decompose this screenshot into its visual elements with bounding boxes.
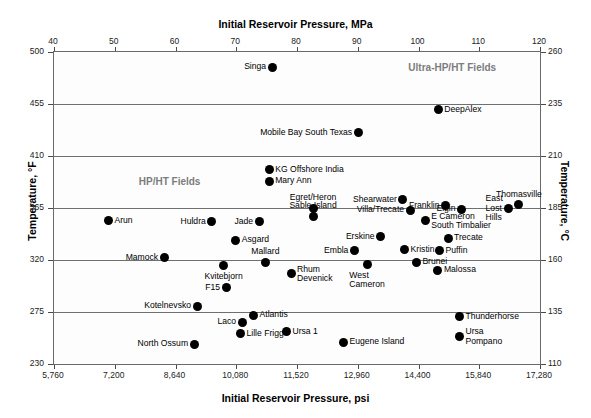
data-point-label: Atlantis — [260, 311, 288, 321]
data-point-label: Lille Frigg — [246, 329, 283, 339]
y-axis-tick-label: 230 — [30, 358, 44, 368]
data-point-label: Laco — [218, 318, 237, 328]
scatter-chart: Initial Reservoir Pressure, MPa Initial … — [0, 0, 591, 418]
y-axis-right-tick — [541, 260, 546, 261]
data-point-label: Kristin — [411, 245, 435, 255]
x-axis-tick — [419, 365, 420, 369]
x-axis-tick — [358, 365, 359, 369]
data-point — [282, 327, 291, 336]
x-axis-tick-label: 8,640 — [164, 370, 185, 380]
x-axis-tick — [479, 365, 480, 369]
data-point — [190, 340, 199, 349]
y-axis-right-tick-label: 235 — [548, 98, 562, 108]
data-point — [339, 338, 348, 347]
y-axis-tick — [48, 156, 53, 157]
y-axis-right-tick-label: 185 — [548, 202, 562, 212]
data-point-label: Jade — [234, 217, 253, 227]
data-point-label: Arun — [114, 216, 132, 226]
y-axis-tick-label: 275 — [30, 306, 44, 316]
data-point-label: Embla — [324, 246, 348, 256]
y-axis-tick — [48, 364, 53, 365]
data-point-label: Eugene Island — [349, 337, 404, 347]
data-point-label: Thunderhorse — [465, 312, 519, 322]
data-point — [444, 234, 453, 243]
data-point-label: Mamock — [126, 253, 158, 263]
data-point-label: Trecate — [454, 233, 483, 243]
data-point-label: Singa — [244, 62, 266, 72]
y-axis-right-tick-label: 160 — [548, 254, 562, 264]
data-point — [238, 318, 247, 327]
y-axis-tick-label: 320 — [30, 254, 44, 264]
y-axis-tick — [48, 312, 53, 313]
data-point-label: Asgard — [242, 236, 269, 246]
x-axis-tick — [540, 365, 541, 369]
x-axis-top-tick — [419, 47, 420, 51]
y-axis-right-tick — [541, 208, 546, 209]
data-point-label: Huldra — [180, 217, 205, 227]
plot-inner: Ultra-HP/HT FieldsHP/HT FieldsSingaDeepA… — [54, 52, 540, 364]
y-axis-tick — [48, 260, 53, 261]
data-point — [287, 269, 296, 278]
data-point — [455, 332, 464, 341]
data-point-label: KG Offshore India — [275, 165, 344, 175]
data-point — [268, 63, 277, 72]
data-point — [433, 266, 442, 275]
x-axis-tick-label: 11,520 — [283, 370, 308, 380]
data-point — [265, 177, 274, 186]
x-axis-tick-label: 10,080 — [222, 370, 248, 380]
data-point-label: Ursa 1 — [292, 327, 317, 337]
data-point-label: Kvitebjorn — [204, 272, 242, 282]
plot-area: Ultra-HP/HT FieldsHP/HT FieldsSingaDeepA… — [53, 51, 541, 365]
x-axis-tick-label: 12,960 — [344, 370, 370, 380]
data-point — [255, 217, 264, 226]
data-point — [104, 216, 113, 225]
bottom-axis-title: Initial Reservoir Pressure, psi — [0, 392, 591, 404]
data-point — [236, 329, 245, 338]
data-point — [376, 232, 385, 241]
y-axis-right-tick — [541, 104, 546, 105]
data-point-label: Mobile Bay South Texas — [260, 128, 352, 138]
y-axis-right-tick — [541, 364, 546, 365]
data-point — [400, 245, 409, 254]
x-axis-top-tick — [236, 47, 237, 51]
data-point — [309, 212, 318, 221]
x-axis-top-tick-label: 70 — [231, 36, 240, 46]
data-point — [421, 216, 430, 225]
y-axis-right-tick — [541, 156, 546, 157]
data-point-label: F15 — [205, 283, 220, 293]
y-axis-right-tick — [541, 52, 546, 53]
x-axis-tick — [115, 365, 116, 369]
data-point — [222, 283, 231, 292]
data-point-label: Malossa — [444, 266, 476, 276]
x-axis-top-tick-label: 120 — [532, 36, 546, 46]
data-point — [265, 165, 274, 174]
data-point — [231, 236, 240, 245]
data-point-label: Rhum Devenick — [297, 264, 332, 283]
data-point-label: Mary Ann — [275, 177, 311, 187]
y-axis-tick-label: 500 — [30, 46, 44, 56]
x-axis-top-tick-label: 100 — [410, 36, 424, 46]
data-point — [261, 258, 270, 267]
data-point — [207, 217, 216, 226]
x-axis-tick — [176, 365, 177, 369]
data-point — [249, 311, 258, 320]
x-axis-tick — [297, 365, 298, 369]
data-point — [412, 258, 421, 267]
y-axis-right-tick-label: 210 — [548, 150, 562, 160]
y-axis-tick — [48, 208, 53, 209]
x-axis-top-tick — [176, 47, 177, 51]
y-axis-right-tick — [541, 312, 546, 313]
x-axis-top-tick — [54, 47, 55, 51]
data-point — [363, 260, 372, 269]
data-point-label: Ursa Pompano — [465, 327, 502, 346]
data-point-label: Mallard — [251, 247, 279, 257]
zone-annotation: HP/HT Fields — [139, 176, 201, 187]
x-axis-tick-label: 14,400 — [405, 370, 431, 380]
x-axis-tick — [54, 365, 55, 369]
gridline-horizontal — [54, 156, 540, 157]
x-axis-top-tick-label: 80 — [291, 36, 300, 46]
x-axis-top-tick — [479, 47, 480, 51]
data-point — [193, 302, 202, 311]
x-axis-top-tick-label: 90 — [352, 36, 361, 46]
x-axis-tick-label: 7,200 — [103, 370, 124, 380]
